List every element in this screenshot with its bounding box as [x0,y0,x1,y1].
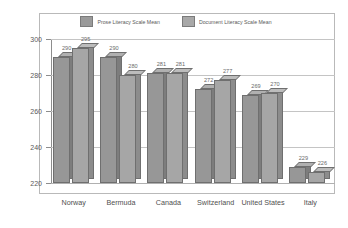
bar-top-face [313,167,335,172]
bar-value-label: 270 [262,81,288,87]
bar[interactable] [119,75,136,183]
bar-front-face [308,172,325,183]
bar-top-face [266,88,288,93]
bar-front-face [261,93,278,183]
y-axis-tick [46,75,51,76]
x-axis-labels: NorwayBermudaCanadaSwitzerlandUnited Sta… [51,198,335,212]
legend-swatch-icon [182,16,195,27]
y-axis-tick [46,111,51,112]
bar-top-face [219,75,241,80]
x-axis-label: Switzerland [197,198,234,207]
bar-front-face [147,73,164,183]
legend-entry[interactable]: Prose Literacy Scale Mean [80,16,160,27]
x-axis-label: Canada [156,198,181,207]
bar[interactable] [53,57,70,183]
bar-front-face [242,95,259,183]
bar-top-face [171,68,193,73]
x-axis-label: Bermuda [106,198,135,207]
bar-chart: Prose Literacy Scale MeanDocument Litera… [0,0,348,228]
bar[interactable] [72,48,89,183]
gridline [51,183,335,184]
bar-front-face [195,89,212,183]
bar[interactable] [100,57,117,183]
bar-value-label: 277 [215,68,241,74]
plot-area: 290295290280281281272277269270229226 [51,39,335,183]
bar[interactable] [261,93,278,183]
y-axis-tick [46,147,51,148]
bar[interactable] [242,95,259,183]
bar-front-face [214,80,231,183]
bar-value-label: 281 [167,61,193,67]
y-axis-tick-label: 220 [18,180,42,187]
bar-side-face [183,69,188,179]
bar-value-label: 226 [309,160,335,166]
bar-top-face [77,43,99,48]
bar[interactable] [289,167,306,183]
y-axis-tick [46,183,51,184]
x-axis-label: United States [241,198,284,207]
bar-side-face [136,71,141,179]
bar-side-face [89,44,94,179]
y-axis-tick [46,39,51,40]
bar-front-face [289,167,306,183]
legend-label: Document Literacy Scale Mean [199,19,272,25]
bar[interactable] [214,80,231,183]
bar-value-label: 295 [73,36,99,42]
bar[interactable] [195,89,212,183]
y-axis-tick-label: 240 [18,144,42,151]
bar-front-face [100,57,117,183]
y-axis-tick-label: 260 [18,108,42,115]
bar-top-face [105,52,127,57]
bar-value-label: 290 [101,45,127,51]
y-axis-tick-label: 280 [18,72,42,79]
chart-legend: Prose Literacy Scale MeanDocument Litera… [56,13,296,30]
x-axis-label: Norway [61,198,85,207]
bar-front-face [72,48,89,183]
bar-side-face [231,76,236,179]
legend-label: Prose Literacy Scale Mean [97,19,160,25]
bar[interactable] [147,73,164,183]
bar-side-face [278,89,283,179]
x-axis-label: Italy [304,198,317,207]
bar-front-face [119,75,136,183]
legend-entry[interactable]: Document Literacy Scale Mean [182,16,272,27]
bar[interactable] [166,73,183,183]
bar-front-face [166,73,183,183]
bar-front-face [53,57,70,183]
bar[interactable] [308,172,325,183]
y-axis-tick-label: 300 [18,36,42,43]
legend-swatch-icon [80,16,93,27]
bar-value-label: 280 [120,63,146,69]
